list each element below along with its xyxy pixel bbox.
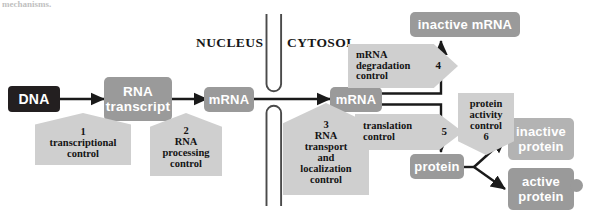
species-label-line1: active [522,174,560,189]
control-line-5: control [310,175,342,186]
control-translation-control: translation control 5 [355,114,463,150]
species-box-mrna-cytosolic: mRNA [330,87,382,112]
control-rna-processing-control: 2 RNA processing control [150,113,222,176]
control-line-3: control [170,159,202,170]
species-label-line1: inactive [516,124,566,139]
control-line-1: mRNA [356,50,388,61]
species-label-line1: RNA [123,84,153,99]
control-number: 6 [483,132,488,143]
species-label-line2: transcript [106,99,170,114]
control-line-3: control [356,71,388,82]
gene-expression-control-diagram: mechanisms. [0,0,590,214]
species-box-dna: DNA [8,86,60,112]
nuclear-envelope-upper-pore [267,14,282,91]
species-box-inactive-mrna: inactive mRNA [410,12,520,37]
control-protein-activity-control: protein activity control 6 [458,93,514,155]
species-label-line2: protein [518,139,563,154]
control-line-2: control [363,132,395,143]
species-box-inactive-protein: inactive protein [508,118,574,160]
cropped-caption-text: mechanisms. [2,0,94,7]
control-line-2: control [67,149,99,160]
nuclear-envelope-lower-pore [267,106,282,206]
species-box-rna-transcript: RNA transcript [104,77,172,121]
active-protein-modification-knob [570,179,583,192]
species-label-line2: protein [518,189,563,204]
control-number: 4 [436,60,442,71]
control-mrna-degradation-control: mRNA degradation control 4 [348,44,458,88]
species-box-protein: protein [410,154,464,179]
compartment-label-nucleus: NUCLEUS [196,35,263,51]
species-box-active-protein: active protein [508,168,574,210]
compartment-label-cytosol: CYTOSOL [287,35,356,51]
species-box-mrna-nuclear: mRNA [204,87,254,112]
arrow-protein-to-active-protein [474,167,505,189]
control-number: 5 [442,126,448,137]
